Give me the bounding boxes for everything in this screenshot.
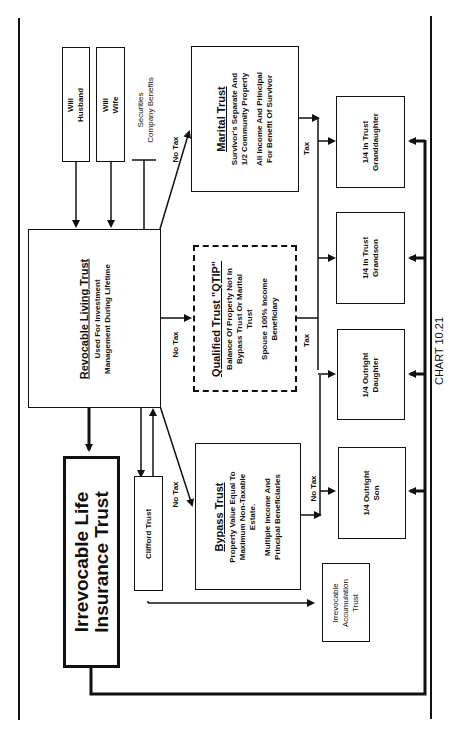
- marital-trust-box: Marital Trust Survivor's Separate And 1/…: [191, 46, 299, 192]
- edge-label-tax-qtip: Tax: [302, 334, 311, 347]
- irrevocable-life-insurance-trust-box: Irrevocable Life Insurance Trust: [63, 456, 120, 668]
- irrevocable-accumulation-trust-box: Irrevocable Accumulation Trust: [322, 563, 370, 642]
- bypass-trust-box: Bypass Trust Property Value Equal To Max…: [195, 443, 301, 590]
- heir-grandson-box: 1/4 In Trust Grandson: [336, 212, 405, 304]
- revocable-living-trust-title: Revocable Living Trust: [77, 258, 89, 378]
- edge-label-no-tax-bypass-heirs: No Tax: [309, 475, 318, 501]
- clifford-trust-box: Clifford Trust: [134, 476, 163, 591]
- securities-label: Securities Company Benefits: [134, 60, 158, 160]
- will-wife-text: Will Wife: [101, 96, 121, 113]
- edge-label-no-tax-marital: No Tax: [171, 136, 180, 162]
- chart-caption: CHART 10.21: [433, 317, 445, 385]
- will-wife-box: Will Wife: [96, 47, 125, 162]
- heir-daughter-box: 1/4 Outright Daughter: [337, 329, 405, 420]
- will-husband-box: Will Husband: [62, 47, 90, 162]
- revocable-living-trust-box: Revocable Living Trust Used For Investme…: [28, 229, 161, 408]
- qtip-trust-box: Qualified Trust "QTIP" Balance Of Proper…: [193, 245, 297, 392]
- edge-label-no-tax-bypass: No Tax: [171, 481, 180, 507]
- will-husband-text: Will Husband: [66, 87, 86, 121]
- heir-son-box: 1/4 Outright Son: [338, 447, 406, 539]
- edge-label-no-tax-qtip: No Tax: [171, 331, 180, 357]
- heir-granddaughter-box: 1/4 In Trust Granddaughter: [336, 96, 405, 188]
- edge-label-tax-marital: Tax: [302, 142, 311, 155]
